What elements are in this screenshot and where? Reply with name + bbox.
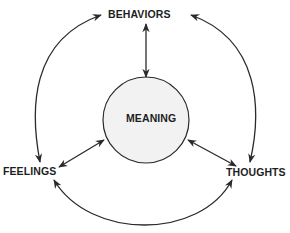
- arc-behaviors-thoughts: [191, 15, 256, 162]
- thoughts-label: THOUGHTS: [226, 167, 286, 178]
- arc-feelings-thoughts: [54, 180, 232, 225]
- arc-feelings-behaviors: [35, 15, 101, 162]
- feelings-label: FEELINGS: [3, 166, 56, 177]
- arrow-meaning-feelings: [59, 140, 104, 167]
- meaning-label: MEANING: [126, 113, 176, 124]
- meaning-diagram: BEHAVIORS MEANING FEELINGS THOUGHTS: [0, 0, 290, 233]
- behaviors-label: BEHAVIORS: [108, 9, 171, 20]
- arrow-meaning-thoughts: [188, 140, 236, 166]
